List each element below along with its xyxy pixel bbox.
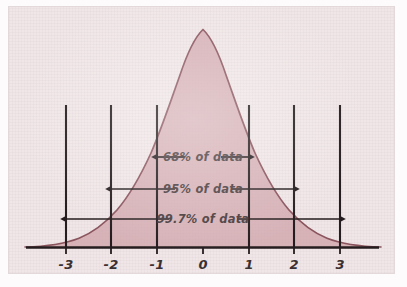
annotation-label-95: 95% of data bbox=[160, 182, 246, 196]
x-tick-label-pos3: 3 bbox=[335, 257, 344, 272]
x-tick-label-neg2: -2 bbox=[104, 257, 119, 272]
x-tick-label-neg3: -3 bbox=[59, 257, 74, 272]
annotation-label-68: 68% of data bbox=[160, 150, 246, 164]
x-tick-label-pos2: 2 bbox=[289, 257, 298, 272]
x-tick-label-neg1: -1 bbox=[150, 257, 165, 272]
normal-distribution-figure: 68% of data 95% of data 99.7% of data -3… bbox=[0, 0, 407, 287]
annotation-label-997: 99.7% of data bbox=[154, 212, 253, 226]
x-axis bbox=[26, 248, 379, 255]
chart-panel: 68% of data 95% of data 99.7% of data -3… bbox=[9, 7, 394, 273]
x-tick-label-pos1: 1 bbox=[244, 257, 253, 272]
x-tick-label-zero: 0 bbox=[198, 257, 207, 272]
distribution-plot bbox=[9, 7, 394, 273]
